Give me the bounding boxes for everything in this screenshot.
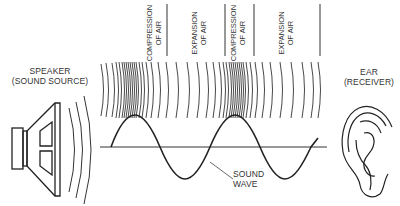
speaker-label: SPEAKER (SOUND SOURCE)	[2, 66, 98, 86]
ear-label: EAR (RECEIVER)	[340, 67, 398, 87]
speaker-label-line2: (SOUND SOURCE)	[2, 76, 98, 86]
speaker-label-line1: SPEAKER	[2, 66, 98, 76]
region-label-compression-1: COMPRESSION OF AIR	[146, 0, 166, 71]
ear-icon	[342, 106, 392, 196]
wave-label-line1: SOUND	[233, 169, 273, 179]
region-label-expansion-1: EXPANSION OF AIR	[191, 0, 211, 71]
ear-label-line2: (RECEIVER)	[340, 77, 398, 87]
region-label-line: OF AIR	[155, 0, 164, 71]
speaker-icon	[12, 103, 60, 196]
region-label-line: OF AIR	[200, 0, 209, 71]
region-label-line: OF AIR	[239, 0, 248, 71]
sound-wave-label: SOUND WAVE	[233, 169, 273, 189]
ear-label-line1: EAR	[340, 67, 398, 77]
region-label-line: OF AIR	[287, 0, 296, 71]
wave-leader-line	[210, 162, 233, 179]
wave-label-line2: WAVE	[233, 179, 273, 189]
speaker-emission-arcs	[69, 96, 91, 204]
region-label-expansion-2: EXPANSION OF AIR	[278, 0, 298, 71]
region-label-compression-2: COMPRESSION OF AIR	[230, 0, 250, 71]
